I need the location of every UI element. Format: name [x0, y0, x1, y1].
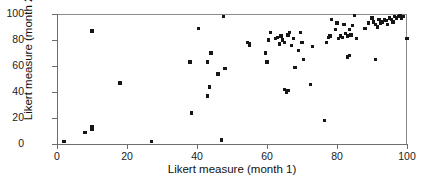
data-point: [341, 36, 344, 39]
data-point: [286, 89, 289, 92]
y-tick-40: [52, 92, 57, 93]
x-tick-60: [267, 144, 268, 149]
data-point: [216, 72, 219, 75]
y-axis-spine: [57, 14, 58, 145]
plot-area: [57, 14, 407, 144]
data-point: [325, 41, 328, 44]
x-tick-label-80: 80: [317, 150, 357, 162]
data-point: [355, 37, 358, 40]
y-tick-20: [52, 118, 57, 119]
data-point: [90, 29, 93, 32]
x-tick-label-60: 60: [247, 150, 287, 162]
data-point: [405, 37, 408, 40]
y-tick-label-60: 60: [0, 59, 24, 71]
y-tick-80: [52, 40, 57, 41]
data-point: [283, 41, 286, 44]
y-tick-0: [52, 144, 57, 145]
data-point: [348, 28, 351, 31]
x-tick-40: [197, 144, 198, 149]
x-tick-label-40: 40: [177, 150, 217, 162]
x-tick-20: [127, 144, 128, 149]
data-point: [376, 25, 379, 28]
data-point: [279, 34, 282, 37]
data-point: [206, 94, 209, 97]
data-point: [342, 23, 345, 26]
data-point: [248, 42, 251, 45]
data-point: [309, 83, 312, 86]
data-point: [209, 51, 212, 54]
data-point: [150, 140, 153, 143]
data-point: [311, 45, 314, 48]
data-point: [386, 23, 389, 26]
x-tick-label-20: 20: [107, 150, 147, 162]
data-point: [300, 41, 303, 44]
data-point: [402, 15, 405, 18]
y-tick-label-100: 100: [0, 7, 24, 19]
data-point: [223, 67, 226, 70]
data-point: [118, 81, 121, 84]
data-point: [278, 42, 281, 45]
data-point: [62, 140, 65, 143]
data-point: [190, 111, 193, 114]
y-tick-label-20: 20: [0, 111, 24, 123]
data-point: [334, 28, 337, 31]
data-point: [290, 44, 293, 47]
data-point: [391, 20, 394, 23]
y-axis-title: Likert measure (month 2): [22, 0, 34, 141]
data-point: [302, 58, 305, 61]
data-point: [206, 60, 209, 63]
y-tick-label-80: 80: [0, 33, 24, 45]
data-point: [328, 34, 331, 37]
data-point: [269, 31, 272, 34]
data-point: [264, 51, 267, 54]
data-point: [292, 37, 295, 40]
y-tick-100: [52, 14, 57, 15]
data-point: [353, 14, 356, 17]
x-axis-title: Likert measure (month 1): [57, 163, 407, 175]
data-point: [330, 18, 333, 21]
x-tick-label-100: 100: [387, 150, 427, 162]
x-tick-0: [57, 144, 58, 149]
data-point: [351, 24, 354, 27]
scatter-plot-figure: 020406080100 020406080100 Likert measure…: [0, 0, 427, 186]
x-tick-100: [407, 144, 408, 149]
data-point: [367, 21, 370, 24]
y-tick-label-40: 40: [0, 85, 24, 97]
data-point: [323, 119, 326, 122]
data-point: [288, 31, 291, 34]
data-point: [374, 58, 377, 61]
data-point: [267, 38, 270, 41]
x-tick-80: [337, 144, 338, 149]
data-point: [297, 49, 300, 52]
plot-right-spine: [406, 14, 407, 144]
data-point: [90, 125, 93, 128]
data-point: [370, 16, 373, 19]
data-point: [83, 131, 86, 134]
data-point: [348, 54, 351, 57]
data-point: [335, 21, 338, 24]
y-tick-label-0: 0: [0, 137, 24, 149]
data-point: [265, 60, 268, 63]
data-point: [293, 66, 296, 69]
data-point: [197, 27, 200, 30]
data-point: [349, 33, 352, 36]
x-axis-spine: [57, 144, 408, 145]
data-point: [299, 31, 302, 34]
data-point: [363, 27, 366, 30]
y-tick-60: [52, 66, 57, 67]
data-point: [220, 138, 223, 141]
data-point: [188, 60, 191, 63]
data-point: [222, 15, 225, 18]
data-point: [208, 85, 211, 88]
